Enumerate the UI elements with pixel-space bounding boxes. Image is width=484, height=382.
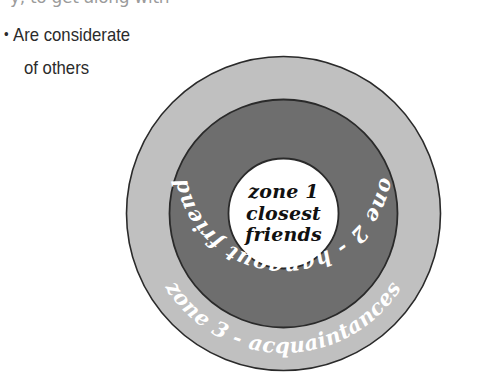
list-item-label: Are considerate: [13, 24, 130, 45]
zone-diagram: zone 2 - hangout friends zone 3 - acquai…: [125, 55, 442, 372]
bullet-point-icon: •: [4, 24, 9, 44]
clipped-top-line: y, to get along with: [10, 0, 169, 7]
list-item: •Are considerate: [4, 25, 130, 46]
list-item-continuation: of others: [24, 58, 89, 78]
